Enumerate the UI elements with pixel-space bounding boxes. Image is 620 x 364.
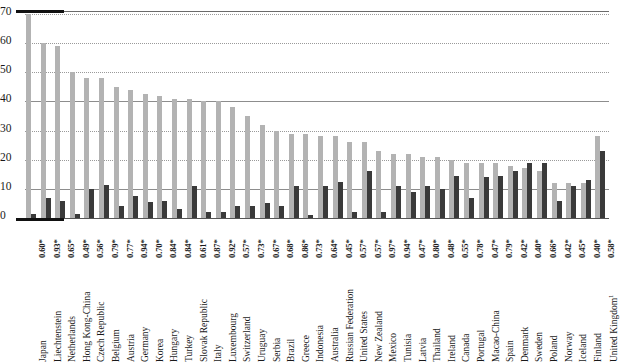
- x-label-column: 0.42*Norway: [552, 222, 566, 362]
- x-label-column: 0.73*Uruguay: [245, 222, 259, 362]
- x-label-column: 0.45*Iceland: [566, 222, 580, 362]
- footnote-marker: 1: [607, 295, 614, 298]
- x-label-column: 0.47*Macao-China: [479, 222, 493, 362]
- y-tick-label-0: 0: [0, 210, 20, 221]
- x-label-column: 0.49*Hong Kong-China: [70, 222, 84, 362]
- x-label-column: 0.42*Denmark: [508, 222, 522, 362]
- x-label-column: 0.68*Brazil: [274, 222, 288, 362]
- x-label-column: 0.65*Netherlands: [55, 222, 69, 362]
- x-label-column: 0.93*Liechtenstein: [41, 222, 55, 362]
- x-label-column: 0.57*Switzerland: [230, 222, 244, 362]
- x-label-column: 0.84*Hungary: [157, 222, 171, 362]
- top-axis-rule: [16, 11, 609, 12]
- x-label-column: 0.70*Korea: [143, 222, 157, 362]
- x-label-column: 0.40*Sweden: [522, 222, 536, 362]
- y-tick-label-30: 30: [0, 123, 20, 134]
- bar-light-series: [26, 14, 31, 218]
- y-tick-label-70: 70: [0, 6, 20, 17]
- x-label-column: 0.55*Canada: [449, 222, 463, 362]
- x-label-column: 0.78*Portugal: [464, 222, 478, 362]
- top-axis-tick-mark: [16, 10, 64, 13]
- x-label-column: 0.66*Poland: [537, 222, 551, 362]
- x-label-column: 0.56*Czech Republic: [84, 222, 98, 362]
- y-tick-label-50: 50: [0, 64, 20, 75]
- x-label-column: 0.67*Serbia: [260, 222, 274, 362]
- x-label-column: 0.87*Italy: [201, 222, 215, 362]
- x-label-column: 0.94*Germany: [128, 222, 142, 362]
- x-label-column: 0.60*Japan: [26, 222, 40, 362]
- x-label-country: United Kingdom1: [607, 222, 619, 362]
- x-label-column: 0.47*Latvia: [406, 222, 420, 362]
- x-label-column: 0.79*Spain: [493, 222, 507, 362]
- x-label-column: 0.48*Ireland: [435, 222, 449, 362]
- x-label-column: 0.57*United States: [347, 222, 361, 362]
- x-label-column: 0.61*Slovak Republic: [187, 222, 201, 362]
- y-tick-label-20: 20: [0, 152, 20, 163]
- x-axis-labels: 0.60*Japan0.93*Liechtenstein0.65*Netherl…: [25, 222, 609, 364]
- x-label-column: 0.58*United Kingdom1: [595, 222, 609, 362]
- x-label-column: 0.80*Thailand: [420, 222, 434, 362]
- bar-dark-series: [31, 214, 36, 218]
- x-label-column: 0.79*Belgium: [99, 222, 113, 362]
- x-label-column: 0.97*Mexico: [376, 222, 390, 362]
- y-tick-label-10: 10: [0, 181, 20, 192]
- x-label-column: 0.84*Turkey: [172, 222, 186, 362]
- x-label-column: 0.40*Finland: [581, 222, 595, 362]
- x-label-column: 0.45*Russian Federation: [333, 222, 347, 362]
- y-tick-label-60: 60: [0, 35, 20, 46]
- y-tick-label-40: 40: [0, 93, 20, 104]
- x-label-column: 0.57*New Zealand: [362, 222, 376, 362]
- x-label-column: 0.94*Tunisia: [391, 222, 405, 362]
- x-label-column: 0.73*Indonesia: [303, 222, 317, 362]
- x-label-column: 0.86*Greece: [289, 222, 303, 362]
- x-label-column: 0.77*Austria: [114, 222, 128, 362]
- x-label-column: 0.92*Luxembourg: [216, 222, 230, 362]
- x-label-column: 0.64*Australia: [318, 222, 332, 362]
